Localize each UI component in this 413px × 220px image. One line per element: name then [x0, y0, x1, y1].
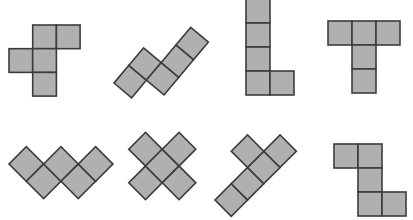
square-cell: [246, 47, 270, 71]
shape-1-f-pentomino: [9, 25, 80, 96]
square-cell: [352, 69, 376, 93]
square-cell: [358, 144, 382, 168]
square-cell: [9, 49, 33, 73]
square-cell: [328, 21, 352, 45]
shape-6-x-pentomino-diagonal: [112, 116, 213, 217]
shape-2-n-pentomino-diagonal: [114, 13, 208, 113]
pentomino-diagram: [0, 0, 413, 220]
shapes-group: [9, 0, 406, 216]
shape-4-t-pentomino: [328, 21, 400, 93]
square-cell: [246, 23, 270, 47]
square-cell: [270, 71, 294, 95]
square-cell: [56, 25, 80, 49]
square-cell: [246, 0, 270, 23]
shape-7-y-pentomino-diagonal: [199, 119, 297, 217]
square-cell: [334, 144, 358, 168]
shape-8-s-tetromino-plus: [334, 144, 406, 216]
square-cell: [376, 21, 400, 45]
square-cell: [246, 71, 270, 95]
square-cell: [358, 168, 382, 192]
square-cell: [33, 25, 57, 49]
square-cell: [33, 49, 57, 73]
square-cell: [352, 45, 376, 69]
square-cell: [352, 21, 376, 45]
square-cell: [382, 192, 406, 216]
shape-3-l-pentomino: [246, 0, 294, 95]
square-cell: [358, 192, 382, 216]
square-cell: [33, 72, 57, 96]
shape-5-w-pentomino-diagonal: [9, 112, 113, 216]
